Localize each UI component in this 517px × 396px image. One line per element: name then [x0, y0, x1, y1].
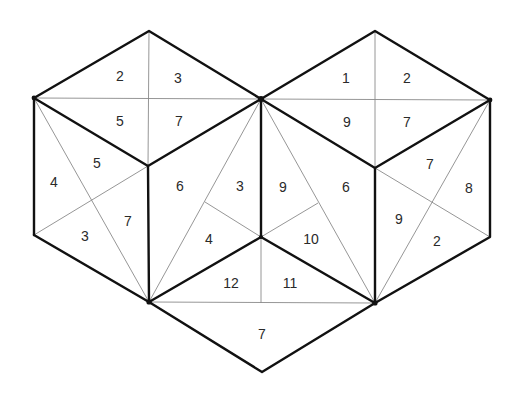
- region-label-lf-3: 7: [124, 213, 132, 229]
- region-label-rf-2: 8: [465, 180, 473, 196]
- region-label-mf-3: 4: [205, 231, 213, 247]
- region-label-rl-3: 10: [303, 231, 319, 247]
- region-label-rt-1: 1: [342, 70, 350, 86]
- region-label-rt-3: 9: [343, 114, 351, 130]
- cube-number-diagram: 2357547363412979610789212117: [0, 0, 517, 396]
- region-label-lt-1: 2: [116, 68, 124, 84]
- region-label-bc-1: 12: [223, 275, 239, 291]
- region-label-rt-2: 2: [403, 70, 411, 86]
- thick-edges: [34, 31, 490, 372]
- region-label-rt-4: 7: [403, 114, 411, 130]
- region-label-rf-3: 9: [395, 211, 403, 227]
- region-label-br-1: 7: [258, 326, 266, 342]
- region-label-lt-3: 5: [116, 113, 124, 129]
- region-label-mf-2: 3: [236, 178, 244, 194]
- region-label-rl-1: 9: [279, 179, 287, 195]
- region-label-rf-4: 2: [433, 233, 441, 249]
- region-label-lf-1: 5: [93, 155, 101, 171]
- region-label-lf-4: 3: [81, 228, 89, 244]
- region-label-lt-4: 7: [175, 113, 183, 129]
- region-label-mf-1: 6: [176, 178, 184, 194]
- region-label-bc-2: 11: [283, 275, 298, 291]
- region-label-lt-2: 3: [174, 70, 182, 86]
- region-label-lf-2: 4: [50, 174, 58, 190]
- region-label-rf-1: 7: [426, 156, 434, 172]
- region-label-rl-2: 6: [342, 179, 350, 195]
